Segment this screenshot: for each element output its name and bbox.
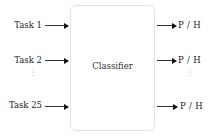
input-arrow-3	[45, 106, 68, 107]
output-label-2: P / H	[178, 55, 201, 65]
output-ellipsis: ⋮	[186, 70, 188, 76]
classifier-label: Classifier	[71, 61, 154, 71]
input-arrow-1	[45, 25, 68, 26]
output-label-3: P / H	[180, 101, 203, 111]
input-label-task-1: Task 1	[2, 20, 42, 30]
input-ellipsis: ⋮	[29, 70, 31, 76]
output-arrow-3	[157, 106, 177, 107]
output-label-1: P / H	[178, 20, 201, 30]
output-arrow-1	[157, 25, 176, 26]
input-arrow-2	[45, 60, 68, 61]
classifier-box: Classifier	[70, 5, 155, 131]
output-arrow-2	[157, 60, 176, 61]
input-label-task-25: Task 25	[2, 100, 42, 110]
input-label-task-2: Task 2	[2, 55, 42, 65]
